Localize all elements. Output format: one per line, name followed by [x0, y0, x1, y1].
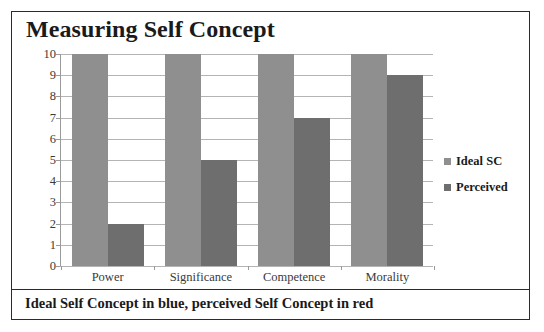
x-axis-tick-label: Significance [170, 270, 232, 285]
chart-caption: Ideal Self Concept in blue, perceived Se… [25, 295, 373, 312]
bar-perceived [108, 224, 144, 266]
legend-item: Ideal SC [444, 154, 528, 169]
chart-legend: Ideal SCPerceived [444, 154, 528, 206]
bar-group [61, 54, 154, 266]
y-axis-tick [56, 96, 60, 97]
y-axis-tick [56, 224, 60, 225]
y-axis-tick [56, 266, 60, 267]
x-axis-tick-label: Morality [366, 270, 410, 285]
plot-area [60, 54, 433, 266]
x-axis-tick-label: Competence [263, 270, 325, 285]
bar-ideal-sc [258, 54, 294, 266]
bar-ideal-sc [351, 54, 387, 266]
y-axis-tick [56, 181, 60, 182]
legend-swatch-icon [444, 184, 451, 191]
y-axis-tick [56, 54, 60, 55]
legend-label: Perceived [456, 180, 508, 195]
bar-ideal-sc [165, 54, 201, 266]
bar-ideal-sc [72, 54, 108, 266]
y-axis-tick [56, 118, 60, 119]
y-axis-tick [56, 202, 60, 203]
bar-perceived [201, 160, 237, 266]
legend-swatch-icon [444, 158, 451, 165]
legend-label: Ideal SC [456, 154, 502, 169]
legend-item: Perceived [444, 180, 528, 195]
chart-title: Measuring Self Concept [26, 16, 275, 43]
bar-series-container [61, 54, 433, 266]
x-axis-tick [434, 266, 435, 270]
chart-figure: Measuring Self Concept 109876543210 Powe… [11, 11, 530, 320]
bar-perceived [294, 118, 330, 266]
y-axis-tick [56, 245, 60, 246]
y-axis-tick [56, 139, 60, 140]
x-axis-tick-labels: PowerSignificanceCompetenceMorality [61, 270, 434, 290]
y-axis-tick [56, 160, 60, 161]
bar-perceived [387, 75, 423, 266]
y-axis-tick [56, 75, 60, 76]
caption-divider [12, 289, 529, 290]
y-axis-tick-label: 10 [44, 48, 57, 61]
bar-group [341, 54, 434, 266]
bar-group [248, 54, 341, 266]
bar-group [154, 54, 247, 266]
x-axis-tick-label: Power [92, 270, 124, 285]
y-axis-tick-labels: 109876543210 [30, 54, 56, 266]
